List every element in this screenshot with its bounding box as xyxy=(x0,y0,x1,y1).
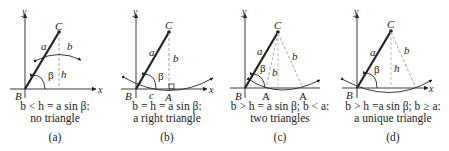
angle-arc-beta xyxy=(145,74,156,89)
condition-text: b > h =a sin β; b ≥ a: xyxy=(332,100,449,112)
result-text: no triangle xyxy=(0,112,110,124)
side-b-long xyxy=(278,33,303,88)
panel-d: y x B C a b h β xyxy=(342,6,434,101)
side-b xyxy=(391,32,416,88)
side-a-label: a xyxy=(41,40,47,52)
x-label: x xyxy=(97,84,103,95)
caption-b: b = h = a sin β: a right triangle (b) xyxy=(112,100,222,143)
side-a xyxy=(245,32,278,88)
panel-tag: (a) xyxy=(0,131,110,143)
side-b-short-label: b xyxy=(272,66,278,78)
angle-beta-label: β xyxy=(260,62,266,74)
result-text: two triangles xyxy=(218,112,342,124)
panel-c: y B C A A a b b β xyxy=(230,6,320,102)
y-label: y xyxy=(132,6,138,17)
vertex-c-label: C xyxy=(55,20,63,32)
condition-text: b < h = a sin β: xyxy=(0,100,110,112)
angle-beta-label: β xyxy=(48,69,54,81)
side-b-long-label: b xyxy=(292,50,298,62)
x-label: x xyxy=(208,84,214,95)
angle-arc-beta xyxy=(33,75,45,89)
vertex-c-label: C xyxy=(387,18,395,30)
caption-c: b > h = a sin β; b < a: two triangles (c… xyxy=(218,100,342,143)
side-a-label: a xyxy=(370,46,376,58)
y-label: y xyxy=(241,6,247,17)
angle-arc-beta xyxy=(366,73,377,88)
y-label: y xyxy=(353,6,359,17)
panel-a: y x B C a b h β xyxy=(10,6,103,102)
side-a-label: a xyxy=(257,45,263,57)
side-b-label: b xyxy=(173,52,179,64)
result-text: a right triangle xyxy=(112,112,222,124)
panel-tag: (d) xyxy=(332,131,449,143)
vertex-c-label: C xyxy=(165,19,173,31)
result-text: a unique triangle xyxy=(332,112,449,124)
condition-text: b = h = a sin β: xyxy=(112,100,222,112)
condition-text: b > h = a sin β; b < a: xyxy=(218,100,342,112)
side-a xyxy=(136,32,169,89)
angle-beta-label: β xyxy=(158,70,164,82)
side-b-label: b xyxy=(67,40,73,52)
angle-arc-beta xyxy=(253,74,265,88)
panel-tag: (c) xyxy=(218,131,342,143)
panel-b: y x B C A a b c β xyxy=(121,6,214,103)
caption-d: b > h =a sin β; b ≥ a: a unique triangle… xyxy=(332,100,449,143)
side-a xyxy=(357,31,391,88)
right-angle-mark xyxy=(169,84,174,89)
side-b-label: b xyxy=(404,44,410,56)
angle-beta-label: β xyxy=(374,63,380,75)
caption-a: b < h = a sin β: no triangle (a) xyxy=(0,100,110,143)
swing-arc-b xyxy=(250,80,320,90)
height-h-label: h xyxy=(394,62,400,74)
vertex-c-label: C xyxy=(274,19,282,31)
height-h-label: h xyxy=(61,68,67,80)
side-a-label: a xyxy=(149,46,155,58)
panel-tag: (b) xyxy=(112,131,222,143)
y-label: y xyxy=(21,6,27,17)
x-label: x xyxy=(428,83,434,94)
